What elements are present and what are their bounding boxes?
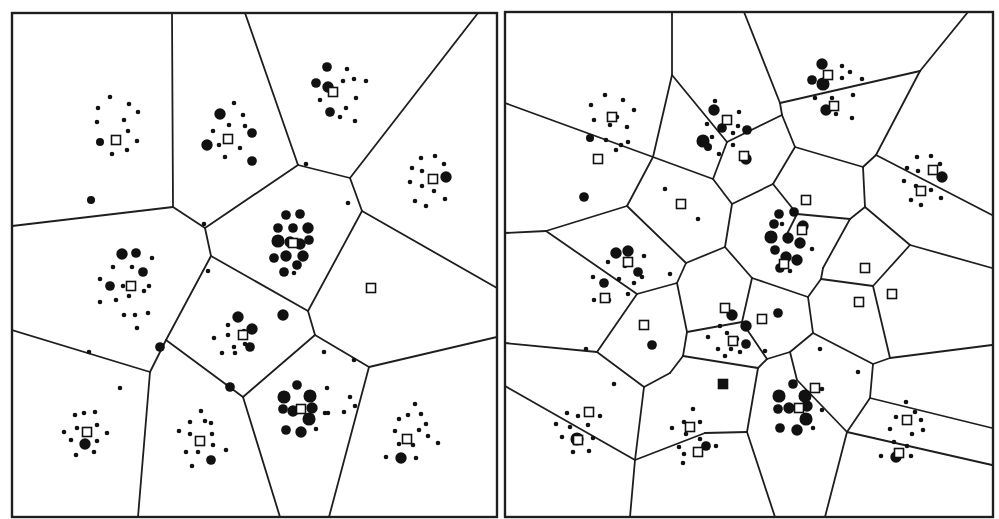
data-point xyxy=(188,420,193,425)
data-point xyxy=(773,404,783,414)
data-point xyxy=(224,448,229,453)
data-point xyxy=(277,390,290,403)
data-point xyxy=(188,432,193,437)
data-point xyxy=(414,456,419,461)
data-point xyxy=(75,426,80,431)
data-point xyxy=(364,79,369,84)
data-point xyxy=(902,179,907,184)
data-point xyxy=(105,281,115,291)
data-point xyxy=(406,413,411,418)
data-point xyxy=(625,125,630,130)
prototype-square xyxy=(585,408,594,417)
data-point xyxy=(604,138,609,143)
data-point xyxy=(419,156,424,161)
data-point xyxy=(919,418,924,423)
data-point xyxy=(82,411,87,416)
data-point xyxy=(408,180,413,185)
data-point xyxy=(619,143,624,148)
data-point xyxy=(820,387,825,392)
prototype-square xyxy=(224,135,233,144)
prototype-square xyxy=(719,380,728,389)
data-point xyxy=(608,123,613,128)
data-point xyxy=(919,203,924,208)
data-point xyxy=(592,118,597,123)
data-point xyxy=(820,408,825,413)
data-point xyxy=(211,443,216,448)
data-point xyxy=(791,424,802,435)
prototype-square xyxy=(640,321,649,330)
data-point xyxy=(397,442,402,447)
data-point xyxy=(118,386,123,391)
data-point xyxy=(196,450,201,455)
data-point xyxy=(782,232,793,243)
data-point xyxy=(798,389,811,402)
data-point xyxy=(297,250,308,261)
data-point xyxy=(302,412,315,425)
prototype-square xyxy=(574,436,583,445)
data-point xyxy=(696,217,701,222)
data-point xyxy=(419,412,424,417)
prototype-square xyxy=(289,239,298,248)
data-point xyxy=(856,370,861,375)
data-point xyxy=(840,76,845,81)
data-point xyxy=(598,414,603,419)
data-point xyxy=(939,196,944,201)
data-point xyxy=(292,380,302,390)
data-point xyxy=(311,78,321,88)
prototype-square xyxy=(429,175,438,184)
data-point xyxy=(325,107,335,117)
prototype-square xyxy=(929,166,938,175)
data-point xyxy=(226,323,231,328)
voronoi-diagram-svg xyxy=(0,0,999,519)
data-point xyxy=(273,223,283,233)
data-point xyxy=(155,342,165,352)
data-point xyxy=(772,389,785,402)
data-point xyxy=(742,125,752,135)
data-point xyxy=(586,423,591,428)
data-point xyxy=(93,410,98,415)
prototype-square xyxy=(740,152,749,161)
prototype-square xyxy=(888,290,897,299)
data-point xyxy=(565,411,570,416)
data-point xyxy=(904,400,909,405)
data-point xyxy=(848,70,853,75)
data-point xyxy=(417,428,422,433)
data-point xyxy=(146,311,151,316)
data-point xyxy=(122,313,127,318)
prototype-square xyxy=(830,102,839,111)
data-point xyxy=(706,335,711,340)
data-point xyxy=(280,250,291,261)
data-point xyxy=(122,118,127,123)
data-point xyxy=(223,155,228,160)
data-point xyxy=(127,102,132,107)
data-point xyxy=(105,431,110,436)
data-point xyxy=(738,350,743,355)
data-point xyxy=(599,278,609,288)
data-point xyxy=(277,309,288,320)
data-point xyxy=(227,123,232,128)
data-point xyxy=(184,450,189,455)
prototype-square xyxy=(367,284,376,293)
data-point xyxy=(860,77,865,82)
data-point xyxy=(909,198,914,203)
data-point xyxy=(190,464,195,469)
data-point xyxy=(938,162,943,167)
data-point xyxy=(682,452,687,457)
data-point xyxy=(716,347,721,352)
data-point xyxy=(807,75,817,85)
prototype-square xyxy=(721,304,730,313)
data-point xyxy=(764,230,777,243)
data-point xyxy=(142,289,147,294)
data-point xyxy=(704,143,712,151)
data-point xyxy=(587,449,592,454)
data-point xyxy=(929,154,934,159)
data-point xyxy=(232,345,237,350)
data-point xyxy=(220,351,225,356)
data-point xyxy=(433,154,438,159)
data-point xyxy=(288,223,298,233)
data-point xyxy=(397,417,402,422)
data-point xyxy=(670,426,675,431)
data-point xyxy=(395,452,406,463)
prototype-square xyxy=(861,264,870,273)
prototype-square xyxy=(758,315,767,324)
